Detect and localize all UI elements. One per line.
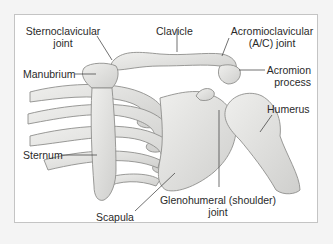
label-sternoclavicular-joint: Sternoclavicular joint bbox=[19, 25, 107, 49]
manubrium-bone bbox=[82, 63, 118, 88]
label-acromion-process: Acromion process bbox=[256, 64, 311, 88]
label-clavicle: Clavicle bbox=[156, 25, 193, 37]
label-line: (A/C) joint bbox=[228, 37, 316, 49]
label-line: Acromion bbox=[256, 64, 311, 76]
label-scapula: Scapula bbox=[96, 211, 134, 223]
label-glenohumeral-joint: Glenohumeral (shoulder) joint bbox=[158, 194, 278, 218]
label-humerus: Humerus bbox=[267, 103, 310, 115]
clavicle-bone bbox=[111, 52, 236, 73]
label-manubrium: Manubrium bbox=[23, 68, 76, 80]
label-line: Sternoclavicular bbox=[19, 25, 107, 37]
label-line: process bbox=[256, 76, 311, 88]
sternum-bone bbox=[91, 88, 116, 200]
label-line: Acromioclavicular bbox=[228, 25, 316, 37]
label-acromioclavicular-joint: Acromioclavicular (A/C) joint bbox=[228, 25, 316, 49]
label-line: Glenohumeral (shoulder) bbox=[158, 194, 278, 206]
label-sternum: Sternum bbox=[23, 149, 63, 161]
label-line: joint bbox=[19, 37, 107, 49]
scapula-bone bbox=[158, 92, 236, 191]
label-line: joint bbox=[158, 206, 278, 218]
